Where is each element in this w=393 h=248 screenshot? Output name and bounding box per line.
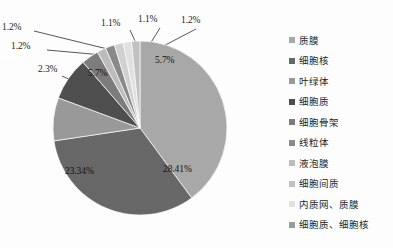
slice-label-1-2-top-left: 1.2% — [2, 22, 21, 32]
legend-item[interactable]: 细胞质 — [289, 92, 393, 113]
slice-label-5-7-dark: 5.7% — [155, 55, 174, 65]
slice-label-28-41: 28.41% — [163, 164, 192, 174]
legend-swatch-icon — [289, 58, 295, 64]
legend-swatch-icon — [289, 78, 295, 84]
pie-slice-group — [53, 41, 227, 215]
legend-item-label: 细胞骨架 — [299, 118, 339, 128]
legend-swatch-icon — [289, 181, 295, 187]
legend-item-label: 内质网、质膜 — [299, 200, 359, 210]
legend-item[interactable]: 细胞核 — [289, 51, 393, 72]
legend-item[interactable]: 线粒体 — [289, 133, 393, 154]
legend-item[interactable]: 叶绿体 — [289, 71, 393, 92]
legend-swatch-icon — [289, 37, 295, 43]
chart-legend: 质膜细胞核叶绿体细胞质细胞骨架线粒体液泡膜细胞间质内质网、质膜细胞质、细胞核 — [289, 30, 393, 230]
legend-item[interactable]: 液泡膜 — [289, 153, 393, 174]
legend-swatch-icon — [289, 119, 295, 125]
legend-swatch-icon — [289, 140, 295, 146]
chart-plot-area: 28.41% 23.34% 5.7% 5.7% 2.3% 1.2% 1.2% 1… — [0, 0, 285, 248]
slice-label-1-2-top-right: 1.2% — [181, 15, 200, 25]
legend-item[interactable]: 细胞骨架 — [289, 112, 393, 133]
legend-item-label: 细胞间质 — [299, 179, 339, 189]
legend-item-label: 细胞质 — [299, 97, 329, 107]
legend-swatch-icon — [289, 201, 295, 207]
legend-swatch-icon — [289, 222, 295, 228]
legend-swatch-icon — [289, 99, 295, 105]
legend-item-label: 细胞质、细胞核 — [299, 220, 369, 230]
legend-item[interactable]: 内质网、质膜 — [289, 194, 393, 215]
slice-label-1-1-mid-left: 1.1% — [101, 18, 120, 28]
legend-item[interactable]: 质膜 — [289, 30, 393, 51]
slice-label-5-7-mid: 5.7% — [88, 68, 107, 78]
slice-label-2-3: 2.3% — [38, 64, 57, 74]
legend-item-label: 质膜 — [299, 36, 319, 46]
legend-item-label: 线粒体 — [299, 138, 329, 148]
legend-item-label: 细胞核 — [299, 56, 329, 66]
slice-label-1-1-mid: 1.1% — [138, 14, 157, 24]
slice-label-1-2-upper-left: 1.2% — [11, 41, 30, 51]
legend-item-label: 液泡膜 — [299, 159, 329, 169]
pie-svg — [0, 0, 285, 248]
slice-label-23-34: 23.34% — [65, 166, 94, 176]
legend-item-label: 叶绿体 — [299, 77, 329, 87]
legend-swatch-icon — [289, 160, 295, 166]
legend-item[interactable]: 细胞质、细胞核 — [289, 215, 393, 236]
pie-chart-figure: 28.41% 23.34% 5.7% 5.7% 2.3% 1.2% 1.2% 1… — [0, 0, 393, 248]
legend-item[interactable]: 细胞间质 — [289, 174, 393, 195]
